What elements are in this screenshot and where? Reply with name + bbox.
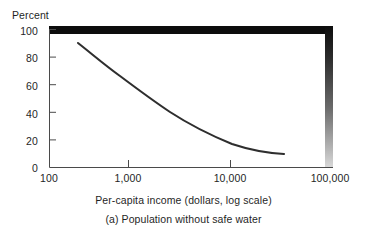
x-axis-caption: Per-capita income (dollars, log scale) [0,194,367,206]
data-series-line [78,43,284,154]
y-tick-marks [50,30,57,140]
panel-caption: (a) Population without safe water [0,213,367,225]
x-tick-marks [129,160,231,168]
axis-lines [50,29,334,168]
figure-population-without-safe-water: Percent 100 80 60 40 20 0 100 1,000 10,0… [0,0,367,234]
